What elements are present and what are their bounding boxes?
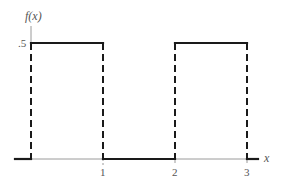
x-tick-label-3: 3 bbox=[244, 166, 250, 178]
x-tick-label-1: 1 bbox=[100, 166, 106, 178]
y-axis-label: f(x) bbox=[25, 9, 42, 23]
x-axis-label: x bbox=[263, 151, 270, 165]
x-tick-label-2: 2 bbox=[172, 166, 178, 178]
step-function-chart: f(x) .5 1 2 3 x bbox=[0, 0, 286, 182]
y-tick-label-half: .5 bbox=[18, 37, 27, 49]
function-solid-segments bbox=[15, 43, 258, 159]
function-dashed-jumps bbox=[31, 43, 247, 159]
